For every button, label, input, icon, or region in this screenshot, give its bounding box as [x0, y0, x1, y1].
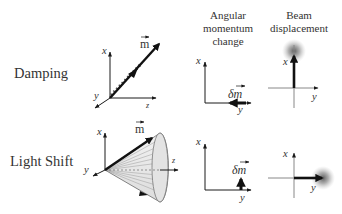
header-line: Beam — [286, 9, 312, 21]
light-shift-beam-panel: x y — [268, 148, 335, 198]
header-line: momentum — [203, 22, 254, 34]
physics-diagram: Angular momentum change Beam displacemen… — [0, 0, 342, 214]
row-label-damping: Damping — [14, 65, 68, 81]
damping-beam-panel: x y — [268, 39, 318, 108]
axis-label-y: y — [93, 90, 99, 101]
axis-label-x: x — [96, 126, 102, 137]
axis-label-y: y — [237, 104, 243, 115]
cone-base — [152, 133, 168, 202]
axis-label-x: x — [282, 56, 288, 67]
axis-label-z: z — [171, 156, 176, 165]
light-shift-delta-m-panel: x y δm — [195, 136, 251, 203]
vector-label-m: m — [135, 122, 145, 136]
header-line: change — [212, 35, 243, 47]
header-line: Angular — [210, 9, 246, 21]
damping-3d-axes: x z y m — [93, 37, 159, 110]
axis-label-x: x — [195, 55, 201, 66]
header-line: displacement — [270, 22, 328, 34]
axis-label-z: z — [145, 101, 150, 110]
column-header-beam-displacement: Beam displacement — [270, 9, 328, 34]
axis-label-y: y — [83, 164, 89, 175]
row-label-light-shift: Light Shift — [10, 153, 73, 169]
axis-label-x: x — [282, 148, 288, 159]
axis-label-y: y — [239, 192, 245, 203]
diagram-stage: Angular momentum change Beam displacemen… — [0, 0, 342, 214]
axis-label-x: x — [101, 45, 107, 56]
axis-label-y: y — [311, 91, 317, 102]
delta-m-label: δm — [228, 87, 243, 101]
column-header-angular-momentum: Angular momentum change — [203, 9, 254, 47]
light-shift-3d-axes: z x y m — [83, 122, 178, 202]
damping-delta-m-panel: x y δm — [195, 55, 251, 115]
vector-label-m: m — [140, 37, 150, 51]
y-axis — [93, 170, 105, 176]
axis-label-y: y — [310, 182, 316, 193]
axis-label-x: x — [195, 136, 201, 147]
delta-m-label: δm — [232, 163, 247, 177]
